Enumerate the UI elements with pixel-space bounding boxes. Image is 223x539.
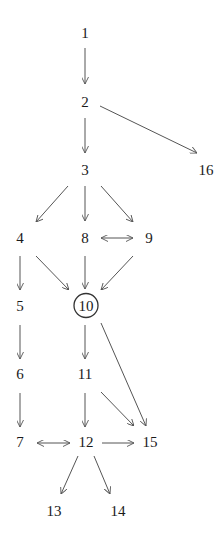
edges	[20, 48, 197, 494]
node-label: 14	[111, 503, 127, 519]
node-5: 5	[16, 298, 24, 314]
node-label: 11	[78, 366, 92, 382]
edge-12-to-14	[94, 456, 110, 494]
node-label: 4	[16, 230, 24, 246]
node-12: 12	[79, 434, 94, 450]
nodes: 12316489510611712151314	[16, 25, 214, 519]
node-label: 9	[145, 230, 153, 246]
node-10: 10	[74, 294, 98, 318]
node-label: 16	[199, 162, 215, 178]
node-label: 6	[16, 366, 24, 382]
node-label: 10	[79, 298, 94, 314]
node-11: 11	[78, 366, 92, 382]
node-label: 13	[47, 503, 62, 519]
node-label: 3	[81, 162, 89, 178]
node-14: 14	[111, 503, 127, 519]
node-6: 6	[16, 366, 24, 382]
node-2: 2	[81, 94, 89, 110]
node-13: 13	[47, 503, 62, 519]
edge-3-to-9	[101, 186, 133, 222]
node-7: 7	[16, 434, 24, 450]
node-16: 16	[199, 162, 215, 178]
node-label: 5	[16, 298, 24, 314]
edge-10-to-15	[101, 323, 146, 426]
node-label: 7	[16, 434, 24, 450]
node-1: 1	[81, 25, 89, 41]
node-label: 1	[81, 25, 89, 41]
node-label: 12	[79, 434, 94, 450]
node-15: 15	[143, 434, 158, 450]
node-label: 15	[143, 434, 158, 450]
node-8: 8	[81, 230, 89, 246]
node-3: 3	[81, 162, 89, 178]
edge-2-to-16	[100, 106, 197, 153]
node-label: 2	[81, 94, 89, 110]
node-9: 9	[145, 230, 153, 246]
edge-3-to-4	[36, 186, 68, 222]
node-4: 4	[16, 230, 24, 246]
edge-9-to-10	[101, 256, 133, 290]
edge-11-to-15	[101, 392, 134, 426]
edge-12-to-13	[61, 456, 78, 494]
edge-4-to-10	[36, 256, 69, 290]
graph-diagram: 12316489510611712151314	[0, 0, 223, 539]
node-label: 8	[81, 230, 89, 246]
